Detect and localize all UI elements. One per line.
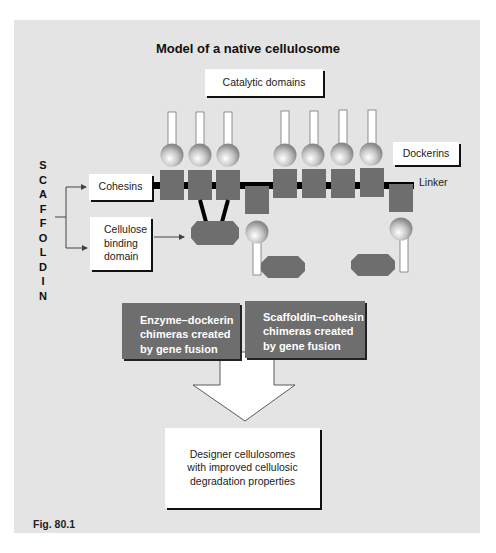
cellulose-binding-domain-shape bbox=[191, 221, 239, 245]
catalytic-domain-shape bbox=[351, 254, 395, 276]
figure-label: Fig. 80.1 bbox=[33, 518, 75, 530]
catalytic-domain-shape bbox=[261, 256, 305, 278]
scaffoldin-cohesin-chimeras-box: Scaffoldin–cohesin chimeras created by g… bbox=[245, 301, 365, 358]
down-arrow bbox=[193, 352, 295, 421]
designer-cellulosomes-box: Designer cellulosomes with improved cell… bbox=[165, 428, 320, 508]
enzyme-dockerin-chimeras-box: Enzyme–dockerin chimeras created by gene… bbox=[122, 303, 240, 359]
cohesin-modules bbox=[160, 168, 413, 214]
